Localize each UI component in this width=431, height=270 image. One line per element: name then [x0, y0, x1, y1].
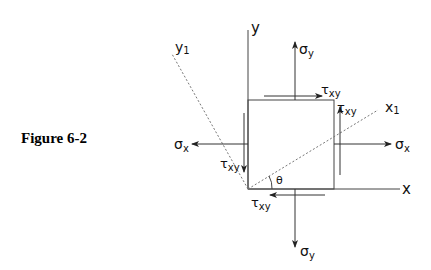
y1-axis-label: y1	[175, 39, 190, 56]
sigma-y-bottom-label: σy	[300, 243, 315, 261]
x1-axis-dashed	[248, 110, 378, 189]
tau-right-label: τxy	[337, 100, 357, 117]
sigma-x-left-label: σx	[174, 136, 189, 154]
sigma-x-right-label: σx	[395, 136, 410, 154]
y-axis-label: y	[251, 19, 260, 37]
sigma-y-top-label: σy	[299, 41, 314, 59]
x1-axis-label: x1	[385, 99, 400, 116]
tau-left-label: τxy	[220, 156, 240, 173]
tau-top-label: τxy	[321, 82, 341, 99]
x-axis-label: x	[402, 180, 411, 198]
tau-bottom-label: τxy	[251, 195, 271, 212]
theta-arc	[269, 176, 272, 189]
stress-element-diagram: y x y1 x1 σy σy σx σx τxy τxy τxy τxy θ	[0, 0, 431, 270]
theta-label: θ	[276, 174, 283, 187]
